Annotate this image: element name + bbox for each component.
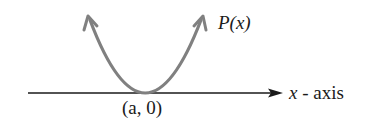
point-label: (a, 0)	[122, 97, 162, 119]
diagram-canvas: P(x) x - axis (a, 0)	[0, 0, 380, 127]
curve-label: P(x)	[218, 12, 251, 34]
curve-label-text: P(x)	[218, 12, 251, 33]
x-axis-text: - axis	[297, 82, 343, 103]
parabola-curve	[90, 20, 201, 93]
diagram-svg	[0, 0, 380, 127]
x-axis-label: x - axis	[289, 82, 344, 104]
point-label-text: (a, 0)	[122, 97, 162, 118]
